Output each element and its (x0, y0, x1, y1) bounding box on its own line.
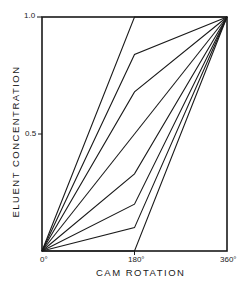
series-lines (42, 17, 227, 251)
series-line-4 (42, 17, 227, 251)
y-tick-label-1: 1.0 (24, 11, 35, 20)
x-axis-title: CAM ROTATION (96, 267, 185, 278)
y-tick-label-0: 0.5 (25, 129, 36, 138)
x-tick-label-1: 180° (128, 255, 145, 264)
x-tick-label-2: 360° (220, 255, 237, 264)
y-axis-title: ELUENT CONCENTRATION (10, 78, 21, 218)
x-tick-label-0: 0° (40, 255, 48, 264)
chart-plot (0, 0, 248, 286)
